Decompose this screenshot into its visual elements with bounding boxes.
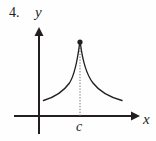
problem-figure: 4. y x c xyxy=(0,0,156,141)
y-axis-arrowhead-icon xyxy=(35,27,44,36)
x-tick-label-c: c xyxy=(76,120,82,134)
x-axis-label: x xyxy=(143,112,150,127)
y-axis-label: y xyxy=(35,5,42,20)
curve-right-branch xyxy=(80,44,122,101)
curve-left-branch xyxy=(44,44,80,101)
problem-number-label: 4. xyxy=(9,6,20,20)
maximum-point-marker xyxy=(77,39,82,44)
x-axis-arrowhead-icon xyxy=(131,112,140,121)
